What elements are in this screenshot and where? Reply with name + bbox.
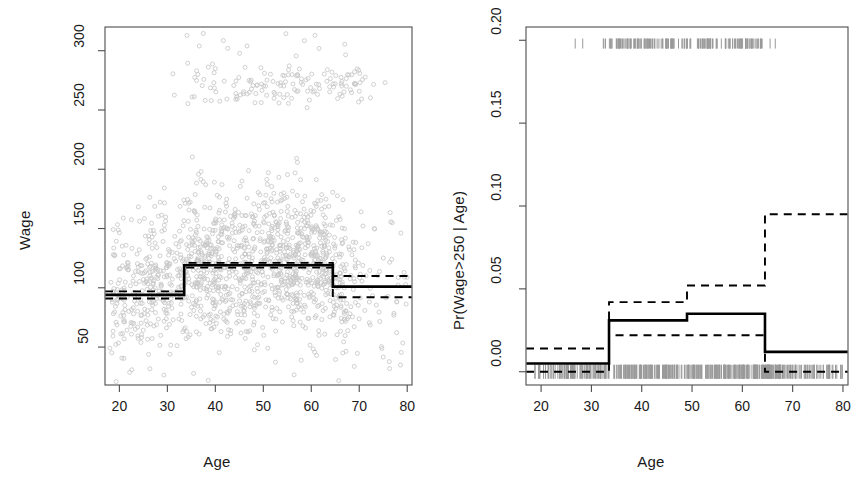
scatter-point	[115, 323, 119, 327]
scatter-point-high-wage	[368, 96, 372, 100]
scatter-point	[182, 219, 186, 223]
scatter-point	[114, 239, 118, 243]
y-tick-label-left-200: 200	[71, 140, 87, 168]
scatter-point-high-wage	[213, 67, 217, 71]
scatter-point	[269, 313, 273, 317]
scatter-point-high-wage	[243, 65, 247, 69]
x-tick-label-right-20: 20	[533, 398, 549, 414]
scatter-point	[179, 253, 183, 257]
scatter-point	[281, 239, 285, 243]
scatter-point	[167, 322, 171, 326]
scatter-point	[225, 197, 229, 201]
scatter-point	[150, 337, 154, 341]
scatter-point	[174, 242, 178, 246]
scatter-point-high-wage	[328, 85, 332, 89]
scatter-point	[146, 337, 150, 341]
scatter-point	[335, 333, 339, 337]
scatter-point-high-wage	[340, 84, 344, 88]
scatter-point	[158, 254, 162, 258]
x-tick-label-right-30: 30	[584, 398, 600, 414]
scatter-point-high-wage	[325, 68, 329, 72]
scatter-point	[264, 193, 268, 197]
scatter-point	[219, 330, 223, 334]
scatter-point-high-wage	[232, 84, 236, 88]
scatter-point	[247, 245, 251, 249]
panel-probability-vs-age: Age 203040506070800.000.050.100.150.20	[434, 0, 868, 484]
x-tick-label-left-20: 20	[112, 398, 128, 414]
scatter-point	[270, 308, 274, 312]
scatter-point	[295, 194, 299, 198]
scatter-point	[343, 236, 347, 240]
scatter-point	[282, 250, 286, 254]
scatter-point	[111, 334, 115, 338]
rug-top-group	[575, 39, 775, 49]
scatter-point	[278, 310, 282, 314]
scatter-point	[395, 331, 399, 335]
y-axis-title-left: Wage	[16, 211, 33, 250]
scatter-point	[279, 217, 283, 221]
scatter-point	[233, 226, 237, 230]
scatter-point	[129, 218, 133, 222]
scatter-point	[217, 211, 221, 215]
scatter-point	[272, 191, 276, 195]
scatter-point	[323, 205, 327, 209]
scatter-point	[331, 300, 335, 304]
scatter-point	[142, 217, 146, 221]
scatter-point	[267, 222, 271, 226]
scatter-point	[299, 178, 303, 182]
y-tick-label-right-0.00: 0.00	[488, 335, 504, 371]
scatter-point	[352, 364, 356, 368]
scatter-point-high-wage	[172, 93, 176, 97]
scatter-point	[130, 332, 134, 336]
y-tick-label-right-0.10: 0.10	[488, 169, 504, 205]
scatter-point-high-wage	[286, 101, 290, 105]
scatter-point-high-wage	[222, 79, 226, 83]
scatter-point	[192, 309, 196, 313]
scatter-point-outlier	[201, 31, 205, 35]
scatter-point	[217, 351, 221, 355]
scatter-point	[153, 204, 157, 208]
scatter-point	[334, 357, 338, 361]
y-tick-label-left-250: 250	[71, 81, 87, 109]
scatter-point-high-wage	[283, 80, 287, 84]
scatter-point	[303, 194, 307, 198]
scatter-point	[291, 236, 295, 240]
scatter-point	[252, 202, 256, 206]
scatter-point	[148, 367, 152, 371]
scatter-point	[292, 324, 296, 328]
scatter-point-outlier	[238, 51, 242, 55]
x-tick-label-right-60: 60	[735, 398, 751, 414]
scatter-point-high-wage	[212, 81, 216, 85]
scatter-point	[129, 320, 133, 324]
scatter-point	[342, 340, 346, 344]
scatter-point	[323, 332, 327, 336]
scatter-point-high-wage	[344, 77, 348, 81]
scatter-point-outlier	[185, 34, 189, 38]
scatter-point-high-wage	[234, 79, 238, 83]
scatter-point	[190, 294, 194, 298]
scatter-point	[164, 326, 168, 330]
scatter-point	[137, 279, 141, 283]
scatter-point-high-wage	[212, 71, 216, 75]
scatter-point-high-wage	[317, 87, 321, 91]
scatter-point	[387, 360, 391, 364]
scatter-point	[262, 221, 266, 225]
scatter-point	[114, 380, 118, 384]
scatter-point	[261, 325, 265, 329]
scatter-point	[271, 317, 275, 321]
scatter-point	[219, 293, 223, 297]
scatter-point	[148, 195, 152, 199]
scatter-point	[247, 169, 251, 173]
scatter-point	[366, 242, 370, 246]
scatter-point	[194, 181, 198, 185]
scatter-point	[361, 224, 365, 228]
scatter-point-high-wage	[316, 92, 320, 96]
scatter-point	[399, 350, 403, 354]
probability-confidence-band-1	[526, 214, 848, 348]
scatter-point	[291, 189, 295, 193]
scatter-point	[302, 207, 306, 211]
scatter-point	[298, 283, 302, 287]
scatter-point	[131, 279, 135, 283]
scatter-point	[298, 320, 302, 324]
scatter-point	[264, 305, 268, 309]
